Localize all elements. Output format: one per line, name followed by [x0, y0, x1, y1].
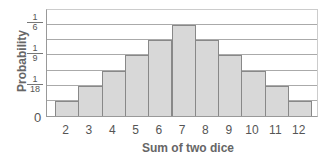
- x-tick-label: 4: [100, 123, 124, 137]
- bar-2: [55, 101, 79, 116]
- x-tick-label: 2: [54, 123, 78, 137]
- y-tick-1-9: 19: [27, 44, 43, 63]
- x-tick-label: 6: [147, 123, 171, 137]
- bar-9: [218, 55, 242, 116]
- y-tick-1-6: 16: [27, 13, 43, 32]
- x-axis-label: Sum of two dice: [142, 141, 234, 155]
- bar-5: [125, 55, 149, 116]
- bar-3: [78, 86, 102, 116]
- x-tick-label: 9: [217, 123, 241, 137]
- x-tick-label: 10: [240, 123, 264, 137]
- bar-11: [265, 86, 289, 116]
- x-tick-label: 5: [124, 123, 148, 137]
- x-tick-label: 12: [287, 123, 311, 137]
- bar-8: [195, 40, 219, 116]
- bar-6: [148, 40, 172, 116]
- x-tick-label: 7: [170, 123, 194, 137]
- x-tick-label: 3: [77, 123, 101, 137]
- x-tick-label: 8: [193, 123, 217, 137]
- plot-area: [46, 9, 318, 117]
- bar-4: [102, 71, 126, 116]
- y-tick-0: 0: [34, 110, 41, 125]
- bar-12: [288, 101, 312, 116]
- x-tick-label: 11: [263, 123, 287, 137]
- bar-7: [172, 25, 196, 116]
- bar-10: [241, 71, 265, 116]
- y-tick-1-18: 118: [27, 75, 43, 94]
